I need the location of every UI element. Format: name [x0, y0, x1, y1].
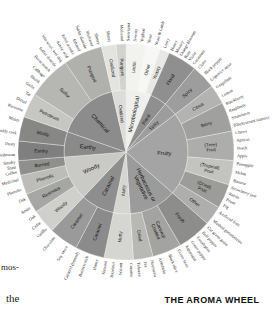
descriptor-label: Apple: [237, 153, 248, 158]
page-body-text-fragment-1: mos-: [1, 262, 19, 272]
descriptor-label: Black olive: [167, 253, 179, 273]
descriptor-label: Chocolate: [41, 235, 56, 252]
descriptor-label: Resin: [20, 205, 32, 215]
aroma-wheel-figure: MicrobiologicalLacticOtherYeastyFloralFl…: [0, 0, 277, 312]
chart-title: THE AROMA WHEEL: [165, 295, 260, 305]
descriptor-label: Peach: [237, 145, 248, 150]
descriptor-label: Banana: [233, 178, 247, 186]
subcategory-label: Earthy: [34, 149, 48, 154]
descriptor-label: Butterscotch: [77, 254, 89, 277]
descriptor-label: Mushroom: [0, 152, 16, 158]
descriptor-label: Lemon: [221, 87, 235, 98]
descriptor-label: Tobacco: [136, 262, 142, 277]
descriptor-label: Garlic: [25, 80, 37, 90]
descriptor-label: Tea: [143, 261, 149, 268]
category-label: Nutty: [121, 184, 127, 196]
descriptor-label: Soy sauce: [55, 244, 68, 261]
descriptor-label: Melon: [235, 170, 248, 177]
category-label: Fruity: [157, 150, 171, 156]
descriptor-label: Oak: [28, 213, 37, 222]
descriptor-label: Hazelnut: [109, 261, 116, 278]
descriptor-label: Artichoke: [158, 257, 168, 275]
descriptor-label: Cherry: [235, 128, 248, 135]
descriptor-label: Phenolic: [6, 187, 22, 197]
descriptor-label: Vanilla: [35, 227, 47, 239]
subcategory-label: Pungent: [119, 58, 125, 76]
wheel-sectors: [18, 44, 234, 260]
descriptor-label: Walnut: [118, 262, 123, 275]
descriptor-label: Almond: [101, 260, 108, 276]
subcategory-label: Nutty: [117, 231, 123, 243]
descriptor-label: Fig: [222, 203, 230, 211]
descriptor-label: Musty: [8, 115, 21, 123]
descriptor-label: Medicinal: [1, 177, 20, 187]
descriptor-label: Apricot: [236, 137, 250, 143]
descriptor-label: Tar: [24, 90, 32, 97]
descriptor-label: Methanol: [119, 24, 125, 41]
descriptor-label: Coconut: [129, 263, 135, 279]
page-body-text-fragment-2: the: [6, 292, 19, 304]
descriptor-label: Oak: [18, 196, 27, 204]
descriptor-label: Dusty: [5, 141, 16, 147]
descriptor-label: Sauerkraut: [125, 22, 131, 42]
descriptor-label: Pineapple: [236, 161, 254, 168]
descriptor-label: Yoghurt: [139, 27, 146, 42]
descriptor-label: Kerosene: [7, 102, 24, 113]
descriptor-label: Diesel: [16, 96, 29, 106]
descriptor-label: Hay/straw: [149, 259, 158, 278]
descriptor-label: Yeast: [146, 33, 153, 44]
descriptor-label: Sherry: [105, 30, 112, 43]
descriptor-label: Sweaty: [132, 28, 138, 42]
descriptor-label: Mouldy cork: [0, 127, 18, 136]
descriptor-label: Honey: [92, 258, 100, 271]
aroma-wheel-chart: MicrobiologicalLacticOtherYeastyFloralFl…: [0, 0, 277, 312]
